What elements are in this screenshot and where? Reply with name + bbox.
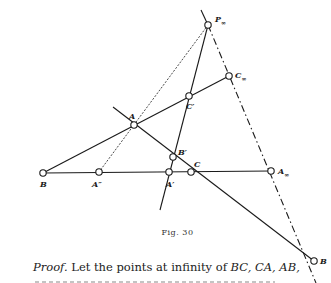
point-a <box>131 122 137 128</box>
label-a-inf: A∞ <box>278 167 289 178</box>
point-a-dprime <box>96 169 102 175</box>
point-p-inf <box>205 22 211 28</box>
proof-label: Proof. <box>33 260 68 274</box>
proof-math: BC, CA, AB, <box>231 260 300 274</box>
point-b-inf <box>311 258 317 264</box>
proof-text: Proof. Let the points at infinity of BC,… <box>33 260 300 274</box>
point-c <box>188 169 194 175</box>
point-a-prime <box>166 169 172 175</box>
point-b-prime <box>170 154 176 160</box>
point-c-prime <box>186 93 192 99</box>
label-a: A <box>129 112 135 120</box>
label-b-prime: B′ <box>178 148 187 156</box>
line-b-a-inf <box>43 171 271 173</box>
label-b: B <box>40 180 47 188</box>
point-c-inf <box>226 73 232 79</box>
label-c: C <box>194 160 200 168</box>
label-a-dprime: A″ <box>92 180 102 188</box>
label-a-prime: A′ <box>166 180 174 188</box>
label-c-inf: C∞ <box>235 71 246 82</box>
line-a-c-b-inf <box>113 107 314 261</box>
label-c-prime: C′ <box>186 102 194 110</box>
point-a-inf <box>268 168 274 174</box>
point-b <box>40 170 46 176</box>
line-at-infinity <box>208 25 316 283</box>
cut-off-text-line <box>35 279 275 283</box>
proof-body: Let the points at infinity of <box>71 260 230 274</box>
figure-caption: Fig. 30 <box>0 228 331 237</box>
label-p-inf: P∞ <box>215 15 226 26</box>
label-b-inf: B <box>320 257 327 265</box>
